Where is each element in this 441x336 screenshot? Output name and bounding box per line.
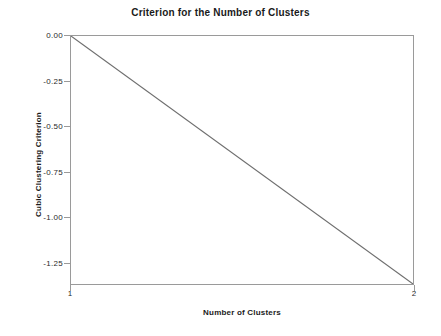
y-tick-label: -1.25 [43, 259, 63, 268]
y-tick-label: -1.00 [43, 213, 63, 222]
x-tick-mark [70, 285, 71, 291]
x-tick-mark [414, 285, 415, 291]
x-axis-title: Number of Clusters [70, 308, 414, 317]
y-tick-label: -0.50 [43, 122, 63, 131]
chart-title: Criterion for the Number of Clusters [0, 7, 441, 18]
chart-container: Criterion for the Number of Clusters Cub… [0, 0, 441, 336]
y-tick-label: 0.00 [46, 31, 63, 40]
y-tick-label: -0.75 [43, 167, 63, 176]
y-axis-title: Cubic Clustering Criterion [34, 65, 43, 265]
plot-svg [71, 36, 413, 284]
data-series-line [71, 36, 413, 284]
plot-area [70, 35, 414, 285]
y-tick-label: -0.25 [43, 76, 63, 85]
